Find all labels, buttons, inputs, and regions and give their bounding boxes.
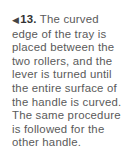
caption-line-2: edge of the tray is [12,28,124,42]
caption-text: The curved [37,13,99,25]
left-arrow-icon: ◀ [12,15,19,25]
caption-line-5: lever is turned until [12,68,124,82]
caption-line-10: other handle. [12,136,124,146]
caption-line-3: placed between the [12,41,124,55]
step-number: 13. [20,13,36,25]
caption-line-7: the handle is curved. [12,96,124,110]
step-caption: ◀13. The curved edge of the tray is plac… [12,13,124,146]
caption-line-8: The same procedure [12,109,124,123]
caption-line-6: the entire surface of [12,82,124,96]
caption-line-9: is followed for the [12,123,124,137]
caption-line-4: two rollers, and the [12,55,124,69]
caption-line-1: ◀13. The curved [12,13,124,28]
